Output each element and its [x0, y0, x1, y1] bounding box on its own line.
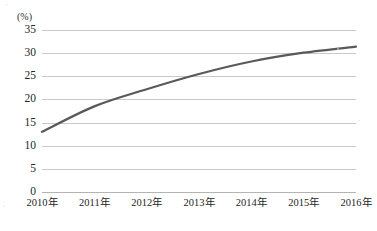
x-axis-tick-label: 2014年	[223, 197, 279, 209]
scan-artifact	[6, 4, 8, 5]
data-series-line	[0, 0, 366, 212]
x-axis-tick-label: 2013年	[171, 197, 227, 209]
x-axis-tick-label: 2012年	[119, 197, 175, 209]
x-axis-tick-labels: 2010年2011年2012年2013年2014年2015年2016年	[42, 197, 356, 213]
scan-artifact	[3, 206, 5, 207]
scan-artifact	[337, 48, 339, 50]
line-chart: (%) 05101520253035 2010年2011年2012年2013年2…	[0, 0, 366, 212]
x-axis-tick-label: 2010年	[14, 197, 70, 209]
x-axis-tick-label: 2016年	[328, 197, 377, 209]
x-axis-tick-label: 2015年	[276, 197, 332, 209]
scan-artifact	[358, 120, 360, 121]
series-path	[42, 47, 356, 132]
x-axis-tick-label: 2011年	[66, 197, 122, 209]
figure-caption	[0, 219, 366, 231]
